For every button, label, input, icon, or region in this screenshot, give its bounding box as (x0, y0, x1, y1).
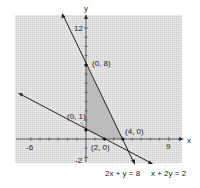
tick-label-y-neg2: -2 (75, 156, 83, 165)
equation-label-line2: x + 2y = 2 (151, 169, 187, 178)
tick-label-x-neg6: -6 (26, 143, 34, 152)
point-label-4-0: (4, 0) (125, 127, 144, 136)
graph: (0, 8) (0, 1) (2, 0) (4, 0) x y -6 9 12 … (0, 0, 200, 188)
point-label-0-8: (0, 8) (92, 59, 111, 68)
tick-label-y-12: 12 (74, 24, 83, 33)
equation-label-line1: 2x + y = 8 (105, 169, 141, 178)
tick-label-x-9: 9 (166, 142, 171, 151)
y-axis-label: y (84, 4, 88, 13)
x-axis-label: x (187, 136, 191, 145)
point-label-2-0: (2, 0) (91, 143, 110, 152)
point-0-8 (84, 63, 87, 66)
point-2-0 (103, 137, 106, 140)
point-label-0-1: (0, 1) (67, 112, 86, 121)
point-0-1 (84, 128, 87, 131)
point-4-0 (121, 137, 124, 140)
